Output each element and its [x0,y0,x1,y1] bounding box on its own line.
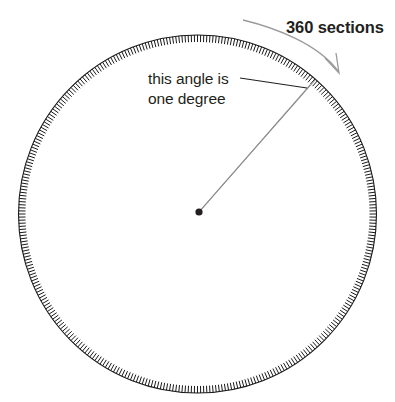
degree-tick [357,147,363,150]
degree-tick [343,119,349,123]
degree-tick [351,292,357,295]
degree-tick [363,165,370,167]
degree-tick [356,144,362,147]
degree-tick [20,235,27,236]
degree-tick [160,39,161,46]
degree-tick [367,183,374,184]
degree-tick [267,50,270,56]
degree-tick [21,183,28,184]
degree-tick [251,44,253,51]
degree-tick [364,259,371,261]
degree-tick [368,235,375,236]
degree-tick [30,150,37,153]
degree-tick [28,270,35,272]
degree-tick [56,320,62,324]
degree-tick [321,90,326,95]
degree-tick [359,273,366,275]
degree-tick [139,45,141,52]
degree-tick [87,350,91,356]
degree-tick [368,192,375,193]
degree-tick [71,336,76,341]
degree-tick [39,130,45,133]
degree-tick [58,322,63,326]
degree-tick [92,69,96,75]
degree-tick [218,36,219,43]
degree-tick [348,127,354,130]
degree-tick [33,281,39,284]
degree-tick [82,346,87,351]
degree-tick [145,43,147,50]
degree-tick [64,94,69,99]
degree-tick [38,133,44,136]
degree-tick [276,55,279,61]
degree-tick [278,56,281,62]
degree-tick [265,372,268,378]
degree-tick [82,77,87,82]
degree-tick [116,55,119,61]
degree-tick [26,264,33,266]
degree-tick [369,229,376,230]
degree-tick [346,300,352,304]
degree-tick [182,36,183,43]
degree-tick [142,378,144,385]
degree-tick [212,36,213,43]
degree-tick [366,250,373,251]
degree-tick [37,136,43,139]
degree-tick [367,244,374,245]
degree-tick [25,168,32,170]
degree-tick [170,37,171,44]
degree-tick [44,303,50,307]
degree-tick [331,101,336,105]
degree-tick [19,232,26,233]
degree-tick [166,38,167,45]
degree-tick [97,357,101,363]
degree-tick [80,79,85,84]
degree-tick [151,41,153,48]
degree-tick [306,348,310,353]
degree-tick [333,104,339,108]
degree-tick [108,363,112,369]
angle-label-line1: this angle is [148,70,229,87]
degree-tick [315,340,320,345]
degree-tick [364,171,371,173]
degree-tick [270,370,273,376]
degree-circle-diagram: 360 sections this angle is one degree [0,0,395,402]
degree-tick [160,382,161,389]
degree-tick [342,308,348,312]
degree-tick [221,384,222,391]
degree-tick [136,46,138,53]
degree-tick [27,267,34,269]
degree-tick [224,37,225,44]
degree-tick [103,62,107,68]
degree-tick [259,375,262,382]
degree-tick [364,256,371,258]
degree-tick [22,247,29,248]
degree-tick [23,253,30,255]
degree-tick [242,41,244,48]
degree-tick [218,385,219,392]
degree-tick [111,57,114,63]
degree-tick [100,64,104,70]
degree-tick [364,168,371,170]
degree-tick [47,117,53,121]
degree-tick [125,50,128,56]
degree-tick [325,94,330,99]
degree-tick [236,382,238,389]
degree-tick [323,331,328,336]
degree-tick [100,358,104,364]
degree-tick [352,136,358,139]
degree-tick [27,159,34,161]
degree-tick [130,48,133,54]
degree-tick [35,138,41,141]
degree-tick [60,99,65,104]
degree-tick [267,371,270,377]
degree-tick [281,57,284,63]
degree-tick [230,383,231,390]
degree-tick [362,264,369,266]
degree-tick [329,325,334,330]
degree-tick [26,162,33,164]
degree-tick [170,384,171,391]
degree-tick [157,40,159,47]
degree-tick [122,370,125,376]
degree-tick [157,382,159,389]
